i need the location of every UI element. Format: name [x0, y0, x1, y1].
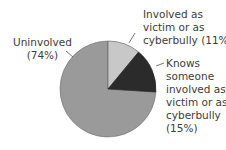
label-involved: Involved as victim or as cyberbully (11%…: [143, 8, 226, 47]
leader-line-involved: [129, 33, 135, 43]
label-knows-someone: Knows someone involved as victim or as c…: [166, 57, 226, 135]
label-uninvolved: Uninvolved (74%): [13, 36, 72, 62]
leader-line-knows: [156, 63, 164, 66]
